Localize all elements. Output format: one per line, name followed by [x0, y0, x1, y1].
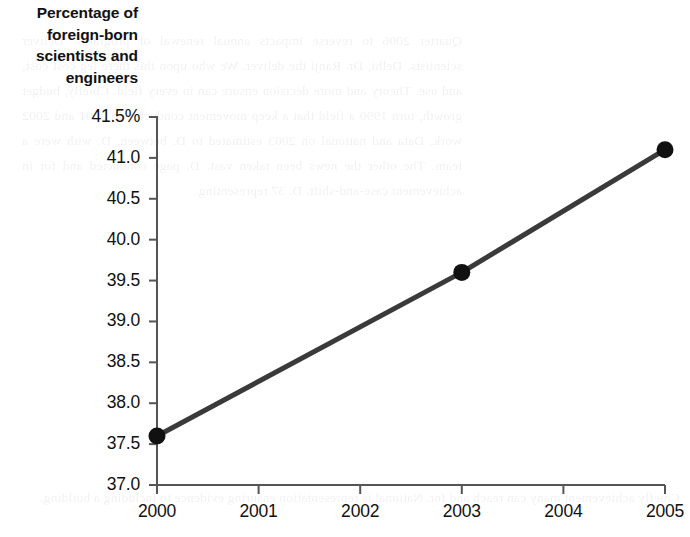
chart-figure: Quarter 2006 to reverse impacts annual r… [0, 0, 690, 537]
y-axis-tick-label: 41.5% [0, 108, 140, 126]
x-axis-tick-label: 2000 [102, 503, 212, 521]
y-axis-tick-label: 39.5 [0, 272, 140, 290]
x-axis-tick-label: 2004 [508, 503, 618, 521]
plot-area [0, 0, 690, 537]
x-axis-tick-label: 2005 [610, 503, 690, 521]
x-axis-tick-label: 2003 [407, 503, 517, 521]
y-axis-tick-label: 37.0 [0, 476, 140, 494]
x-axis-tick-label: 2002 [305, 503, 415, 521]
data-line-series [157, 150, 665, 436]
axis-ticks [149, 117, 665, 494]
y-axis-tick-label: 37.5 [0, 435, 140, 453]
y-axis-tick-label: 38.5 [0, 353, 140, 371]
y-axis-tick-label: 39.0 [0, 312, 140, 330]
y-axis-tick-label: 40.0 [0, 231, 140, 249]
y-axis-tick-label: 41.0 [0, 149, 140, 167]
y-axis-tick-label: 40.5 [0, 190, 140, 208]
x-axis-tick-label: 2001 [204, 503, 314, 521]
y-axis-tick-label: 38.0 [0, 394, 140, 412]
